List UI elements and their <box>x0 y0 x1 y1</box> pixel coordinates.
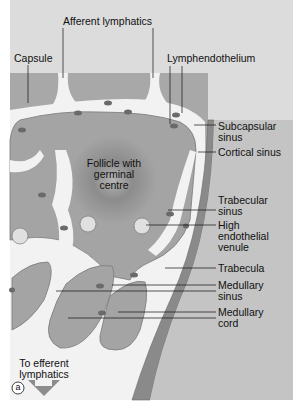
label-medullary-sinus: Medullary sinus <box>218 280 264 302</box>
hev-1 <box>12 228 28 244</box>
label-capsule: Capsule <box>14 53 53 64</box>
label-cortical-sinus: Cortical sinus <box>218 147 281 158</box>
label-afferent-lymphatics: Afferent lymphatics <box>63 16 152 27</box>
hev-2 <box>80 216 96 232</box>
label-trabecular-sinus: Trabecular sinus <box>218 195 268 217</box>
hev-3 <box>134 218 150 234</box>
label-subcapsular-sinus: Subcapsular sinus <box>218 121 276 143</box>
label-medullary-cord: Medullary cord <box>218 307 264 329</box>
label-trabecula: Trabecula <box>218 263 264 274</box>
panel-letter: a <box>12 382 24 393</box>
label-to-efferent-lymphatics: To efferent lymphatics <box>14 358 74 380</box>
label-lymphendothelium: Lymphendothelium <box>167 53 255 64</box>
label-follicle: Follicle with germinal centre <box>83 158 145 191</box>
label-high-endothelial-venule: High endothelial venule <box>218 220 269 253</box>
